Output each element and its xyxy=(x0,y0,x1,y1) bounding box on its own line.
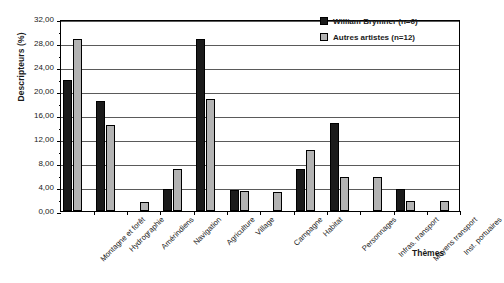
bar-group xyxy=(294,21,327,211)
bar-group xyxy=(194,21,227,211)
x-tick-mark xyxy=(460,211,461,215)
y-tick-label: 24,00 xyxy=(8,64,54,72)
bar xyxy=(240,191,249,211)
bar-group xyxy=(128,21,161,211)
bar xyxy=(340,177,349,211)
y-tick-label: 4,00 xyxy=(8,184,54,192)
bar xyxy=(230,190,239,211)
x-axis-tick-labels: Montagne et forêtHydrographieAmérindiens… xyxy=(60,213,460,283)
x-tick-label: Village xyxy=(254,215,276,237)
x-tick-label: Habitat xyxy=(321,215,344,238)
bar-group xyxy=(328,21,361,211)
legend-swatch-icon xyxy=(320,17,328,25)
bar xyxy=(196,39,205,211)
bar xyxy=(406,201,415,211)
bar-group xyxy=(228,21,261,211)
y-tick-label: 28,00 xyxy=(8,40,54,48)
bar xyxy=(96,101,105,211)
legend-swatch-icon xyxy=(320,33,328,41)
bar-group xyxy=(361,21,394,211)
bar-group xyxy=(428,21,461,211)
bar-group xyxy=(261,21,294,211)
bar xyxy=(306,150,315,211)
bar xyxy=(373,177,382,211)
bar-group xyxy=(61,21,94,211)
bar-group xyxy=(161,21,194,211)
bar xyxy=(440,201,449,211)
legend-item-label: Autres artistes (n=12) xyxy=(333,33,415,42)
bar-group xyxy=(394,21,427,211)
legend: William Brymner (n=6) Autres artistes (n… xyxy=(320,14,460,46)
legend-item: William Brymner (n=6) xyxy=(320,14,460,28)
y-tick-label: 32,00 xyxy=(8,16,54,24)
bar xyxy=(173,169,182,211)
bars-layer xyxy=(61,21,459,211)
legend-item: Autres artistes (n=12) xyxy=(320,30,460,44)
plot-area xyxy=(60,20,460,212)
x-tick-label: Campagne xyxy=(292,215,325,248)
y-tick-label: 0,00 xyxy=(8,208,54,216)
x-tick-label: Navigation xyxy=(191,215,223,247)
bar xyxy=(296,169,305,211)
bar xyxy=(330,123,339,211)
y-tick-label: 8,00 xyxy=(8,160,54,168)
x-tick-label: Personnages xyxy=(360,215,398,253)
bar xyxy=(396,189,405,211)
bar xyxy=(273,192,282,211)
y-tick-label: 20,00 xyxy=(8,88,54,96)
bar xyxy=(163,189,172,211)
bar-group xyxy=(94,21,127,211)
legend-item-label: William Brymner (n=6) xyxy=(333,17,418,26)
bar xyxy=(106,125,115,211)
bar xyxy=(206,99,215,211)
y-tick-label: 16,00 xyxy=(8,112,54,120)
bar xyxy=(73,39,82,211)
bar xyxy=(63,80,72,211)
bar xyxy=(140,202,149,211)
x-tick-label: Agriculture xyxy=(225,215,257,247)
x-axis-title: Thèmes xyxy=(412,248,444,258)
y-tick-label: 12,00 xyxy=(8,136,54,144)
